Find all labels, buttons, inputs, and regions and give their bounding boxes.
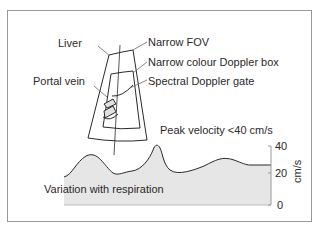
label-narrow-fov: Narrow FOV [148, 36, 210, 48]
tick-label-40: 40 [275, 140, 287, 152]
tick-label-20: 20 [275, 167, 287, 179]
label-colour-box: Narrow colour Doppler box [148, 56, 279, 68]
portal-vein-doppler-diagram: Liver Narrow FOV Narrow colour Doppler b… [0, 0, 326, 237]
label-spectral-gate: Spectral Doppler gate [148, 75, 254, 87]
label-liver: Liver [58, 37, 82, 49]
label-peak-velocity: Peak velocity <40 cm/s [160, 124, 273, 136]
axis-unit-label: cm/s [291, 159, 303, 183]
label-variation: Variation with respiration [44, 183, 164, 195]
tick-label-0: 0 [277, 199, 283, 211]
label-portal-vein: Portal vein [33, 75, 85, 87]
